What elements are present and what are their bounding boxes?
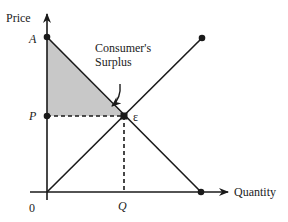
equilibrium-label: ε	[133, 110, 138, 124]
point-p-marker	[44, 113, 51, 120]
equilibrium-marker	[121, 113, 128, 120]
point-a-marker	[44, 34, 51, 41]
supply-end-marker	[199, 35, 206, 42]
annotation-line2: Surplus	[95, 55, 132, 69]
quantity-axis-label: Quantity	[234, 185, 276, 199]
point-q-label: Q	[118, 199, 127, 213]
origin-label: 0	[29, 201, 35, 215]
annotation-line1: Consumer's	[95, 41, 151, 55]
demand-end-marker	[198, 189, 205, 196]
price-axis-label: Price	[6, 11, 31, 25]
point-p-label: P	[28, 109, 37, 123]
point-a-label: A	[28, 32, 37, 46]
consumer-surplus-diagram: Price Quantity 0 A P Q ε Consumer's Surp…	[0, 0, 288, 222]
